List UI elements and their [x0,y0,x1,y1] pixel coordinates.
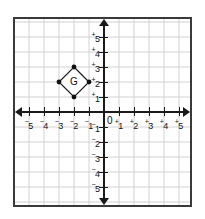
shape-vertex-point [72,95,77,100]
shape-vertex-point [72,65,77,70]
shape-vertex-point [57,80,62,85]
plotted-shape-g [15,19,190,205]
plot-area: −5−4−3−2−1+1+2+3+4+5−5−4−3−2−1+1+2+3+4+5… [13,17,192,207]
shape-vertex-point [87,80,92,85]
coordinate-plane-figure: −5−4−3−2−1+1+2+3+4+5−5−4−3−2−1+1+2+3+4+5… [0,0,205,219]
shape-label-g: G [70,77,78,87]
